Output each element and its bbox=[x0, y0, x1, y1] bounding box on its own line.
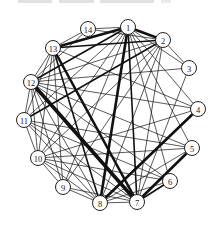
node-1: 1 bbox=[121, 20, 136, 35]
node-3: 3 bbox=[182, 61, 197, 76]
edge-12-14 bbox=[31, 29, 88, 82]
node-label: 5 bbox=[190, 144, 194, 154]
node-13: 13 bbox=[46, 41, 61, 56]
node-11: 11 bbox=[17, 113, 32, 128]
network-graph: 1234567891011121314 bbox=[0, 0, 221, 228]
node-label: 7 bbox=[135, 198, 139, 208]
node-label: 13 bbox=[49, 44, 58, 54]
node-label: 14 bbox=[84, 25, 93, 35]
node-8: 8 bbox=[93, 196, 108, 211]
node-2: 2 bbox=[156, 33, 171, 48]
node-4: 4 bbox=[191, 102, 206, 117]
edge-7-12 bbox=[31, 82, 137, 202]
node-label: 10 bbox=[34, 154, 43, 164]
node-6: 6 bbox=[163, 174, 178, 189]
node-label: 6 bbox=[168, 177, 172, 187]
node-5: 5 bbox=[185, 141, 200, 156]
node-7: 7 bbox=[130, 195, 145, 210]
node-label: 11 bbox=[20, 116, 28, 126]
node-label: 12 bbox=[27, 78, 36, 88]
node-10: 10 bbox=[31, 151, 46, 166]
node-label: 1 bbox=[126, 23, 130, 33]
node-label: 8 bbox=[98, 199, 102, 209]
edge-5-7 bbox=[137, 148, 192, 202]
node-label: 3 bbox=[187, 64, 191, 74]
node-label: 2 bbox=[161, 36, 165, 46]
node-12: 12 bbox=[24, 75, 39, 90]
edge-5-11 bbox=[24, 120, 192, 148]
edge-7-13 bbox=[53, 48, 137, 202]
node-label: 9 bbox=[61, 183, 65, 193]
node-9: 9 bbox=[56, 180, 71, 195]
edge-8-10 bbox=[38, 158, 100, 203]
node-14: 14 bbox=[81, 22, 96, 37]
